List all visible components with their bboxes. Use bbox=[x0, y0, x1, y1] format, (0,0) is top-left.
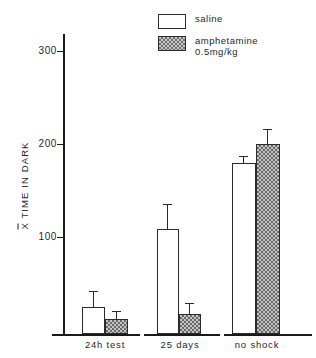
errorbar-cap-amphetamine-no-shock bbox=[263, 129, 272, 130]
legend-label-saline: saline bbox=[195, 14, 223, 25]
errorbar-cap-saline-24h-test bbox=[89, 291, 98, 292]
x-axis-label-25-days: 25 days bbox=[140, 339, 220, 350]
errorbar-cap-amphetamine-24h-test bbox=[112, 311, 121, 312]
bar-amphetamine-no-shock bbox=[256, 144, 280, 334]
y-axis-line bbox=[63, 34, 65, 335]
legend-item-saline: saline bbox=[158, 14, 258, 29]
errorbar-saline-24h-test bbox=[93, 291, 94, 307]
y-tick-label-300: 300 bbox=[17, 45, 57, 56]
bar-saline-no-shock bbox=[232, 163, 256, 334]
bar-saline-25-days bbox=[157, 229, 179, 334]
errorbar-amphetamine-no-shock bbox=[267, 129, 268, 144]
y-tick-100 bbox=[57, 237, 64, 238]
bar-amphetamine-25-days bbox=[179, 314, 201, 334]
x-bar-symbol: X bbox=[19, 222, 30, 229]
y-axis-title-text: TIME IN DARK bbox=[19, 141, 30, 222]
x-axis-label-no-shock: no shock bbox=[216, 339, 298, 350]
legend-label-amphetamine: amphetamine bbox=[195, 35, 258, 46]
chart-legend: saline amphetamine 0.5mg/kg bbox=[158, 14, 258, 64]
hatched-square-swatch-icon bbox=[158, 36, 186, 51]
errorbar-cap-saline-no-shock bbox=[239, 156, 248, 157]
legend-item-amphetamine: amphetamine 0.5mg/kg bbox=[158, 36, 258, 57]
errorbar-cap-saline-25-days bbox=[163, 204, 172, 205]
errorbar-cap-amphetamine-25-days bbox=[185, 303, 194, 304]
x-axis-label-24h-test: 24h test bbox=[64, 339, 146, 350]
legend-label-amphetamine-dose: 0.5mg/kg bbox=[195, 47, 258, 58]
errorbar-amphetamine-25-days bbox=[189, 303, 190, 314]
bar-saline-24h-test bbox=[82, 307, 105, 334]
open-square-swatch-icon bbox=[158, 14, 186, 29]
errorbar-amphetamine-24h-test bbox=[116, 311, 117, 319]
baseline-segment-3 bbox=[224, 334, 312, 336]
y-axis-title: X TIME IN DARK bbox=[19, 116, 30, 256]
bar-amphetamine-24h-test bbox=[105, 319, 128, 334]
bar-chart-figure: saline amphetamine 0.5mg/kg 300 200 100 … bbox=[0, 0, 316, 358]
y-tick-300 bbox=[57, 51, 64, 52]
baseline-segment-2 bbox=[144, 334, 220, 336]
baseline-segment-1 bbox=[52, 334, 140, 336]
errorbar-saline-25-days bbox=[167, 204, 168, 229]
legend-label-amphetamine-wrap: amphetamine 0.5mg/kg bbox=[195, 36, 258, 57]
y-tick-200 bbox=[57, 144, 64, 145]
